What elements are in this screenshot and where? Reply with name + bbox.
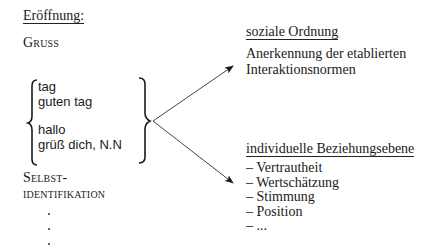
description-line: Interaktionsnormen <box>246 62 406 78</box>
greeting-item: grüß dich, N.N <box>38 137 122 152</box>
list-item: – Vertrautheit <box>246 161 339 176</box>
soziale-ordnung-description: Anerkennung der etablierten Interaktions… <box>246 46 406 77</box>
greeting-item: guten tag <box>38 94 122 109</box>
label-selbst-line1: Selbst- <box>23 170 105 186</box>
arrow-to-individuelle-beziehungsebene <box>153 121 233 183</box>
continuation-dot <box>48 228 50 230</box>
continuation-dot <box>48 243 50 245</box>
label-selbst-line2: identifikation <box>23 186 105 202</box>
heading-individuelle-beziehungsebene: individuelle Beziehungsebene <box>246 141 414 157</box>
right-brace <box>139 78 150 163</box>
greetings-list: tag guten tag hallo grüß dich, N.N <box>38 79 122 152</box>
beziehungsebene-list: – Vertrautheit – Wertschätzung – Stimmun… <box>246 161 339 234</box>
list-item: – ... <box>246 219 339 234</box>
heading-eroeffnung: Eröffnung: <box>23 8 84 24</box>
list-item: – Wertschätzung <box>246 176 339 191</box>
list-item: – Position <box>246 205 339 220</box>
greeting-item: tag <box>38 79 122 94</box>
label-selbstidentifikation: Selbst- identifikation <box>23 170 105 202</box>
greeting-item: hallo <box>38 122 122 137</box>
arrow-to-soziale-ordnung <box>153 66 233 121</box>
description-line: Anerkennung der etablierten <box>246 46 406 62</box>
list-item: – Stimmung <box>246 190 339 205</box>
heading-soziale-ordnung: soziale Ordnung <box>246 24 338 40</box>
continuation-dot <box>48 213 50 215</box>
left-brace <box>28 80 37 165</box>
label-gruss: Gruss <box>23 35 59 51</box>
